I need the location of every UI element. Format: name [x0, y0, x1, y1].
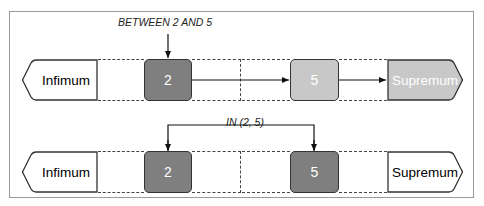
bracket-line	[168, 125, 314, 150]
arrows-overlay	[0, 0, 484, 206]
